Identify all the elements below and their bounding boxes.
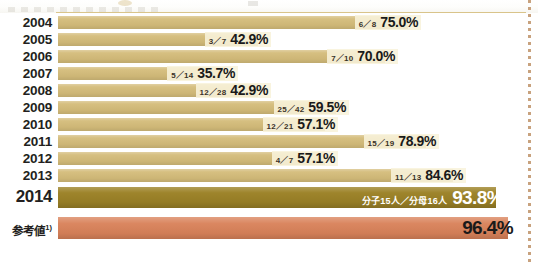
row-fraction-label: 4／7 [276,153,294,168]
row-fraction-label: 11／13 [395,170,421,185]
row-year-label: 2009 [0,99,52,116]
row-value-label-group: 11／13 84.6% [391,168,466,183]
reference-footnote-marker: 1) [45,223,52,232]
row-year-label: 2004 [0,14,52,31]
row-value-label-group: 12／21 57.1% [263,117,339,132]
row-year-label: 2006 [0,48,52,65]
row-percent-label: 57.1% [297,151,335,166]
row-track: 5／14 35.7% [58,67,538,80]
row-fraction-label: 25／42 [278,102,305,117]
row-track: 3／7 42.9% [58,33,538,46]
row-reference-label: 参考値1) [0,213,52,243]
row-track: 12／21 57.1% [58,118,538,131]
chart-row-2009: 2009 25／42 59.5% [0,99,538,116]
row-percent-label: 70.0% [357,49,395,64]
row-fraction-label: 分子15人／分母16人 [362,191,447,212]
row-year-label: 2008 [0,82,52,99]
row-track: 4／7 57.1% [58,152,538,165]
row-percent-label: 35.7% [197,66,235,81]
row-track: 25／42 59.5% [58,101,538,114]
row-track: 15／19 78.9% [58,135,538,148]
chart-row-2005: 2005 3／7 42.9% [0,31,538,48]
chart-row-2007: 2007 5／14 35.7% [0,65,538,82]
row-fraction-label: 15／19 [368,136,395,151]
row-year-label: 2013 [0,167,52,184]
chart-row-2013: 2013 11／13 84.6% [0,167,538,184]
row-track: 7／10 70.0% [58,50,538,63]
row-fraction-label: 7／10 [331,51,353,66]
row-percent-label: 42.9% [230,32,268,47]
row-fraction-label: 3／7 [209,34,227,49]
row-year-label: 2007 [0,65,52,82]
row-value-label-group: 分子15人／分母16人 93.8% [358,187,509,208]
row-year-label: 2014 [0,184,52,210]
row-track: 11／13 84.6% [58,169,538,182]
chart-row-2011: 2011 15／19 78.9% [0,133,538,150]
row-value-label-group: 25／42 59.5% [274,100,350,115]
row-value-label-group: 12／28 42.9% [196,83,272,98]
row-year-label: 2011 [0,133,52,150]
row-bar [58,217,508,239]
row-percent-label: 59.5% [308,100,346,115]
row-percent-label: 84.6% [425,168,463,183]
top-ghost-mark-secondary-icon [248,1,258,6]
row-percent-label: 75.0% [380,15,418,30]
row-value-label-group: 96.4% [458,217,521,239]
row-year-label: 2005 [0,31,52,48]
row-fraction-label: 5／14 [171,68,193,83]
chart-row-2004: 2004 6／8 75.0% [0,14,538,31]
row-year-label: 2010 [0,116,52,133]
top-horizontal-rule [56,12,526,13]
row-value-label-group: 6／8 75.0% [355,15,421,30]
row-value-label-group: 3／7 42.9% [205,32,271,47]
top-ghost-mark-icon [118,0,132,6]
row-value-label-group: 5／14 35.7% [167,66,238,81]
row-percent-label: 93.8% [452,187,503,208]
row-fraction-label: 6／8 [359,17,377,32]
row-track: 分子15人／分母16人 93.8% [58,187,538,208]
chart-rows: 2004 6／8 75.0% 2005 3／7 42.9% 2006 [0,14,538,243]
chart-row-2014-highlight: 2014 分子15人／分母16人 93.8% [0,184,538,210]
row-percent-label: 57.1% [297,117,335,132]
row-track: 6／8 75.0% [58,16,538,29]
row-year-label: 2012 [0,150,52,167]
chart-row-2008: 2008 12／28 42.9% [0,82,538,99]
chart-row-2012: 2012 4／7 57.1% [0,150,538,167]
row-percent-label: 42.9% [230,83,268,98]
chart-row-reference: 参考値1) 96.4% [0,213,538,243]
chart-row-2006: 2006 7／10 70.0% [0,48,538,65]
row-value-label-group: 7／10 70.0% [327,49,398,64]
reference-label-text: 参考値 [12,225,45,237]
row-value-label-group: 15／19 78.9% [364,134,440,149]
row-percent-label: 96.4% [462,217,513,239]
row-percent-label: 78.9% [398,134,436,149]
row-fraction-label: 12／21 [267,119,294,134]
chart-row-2010: 2010 12／21 57.1% [0,116,538,133]
row-track: 96.4% [58,217,538,239]
horizontal-bar-chart: 2004 6／8 75.0% 2005 3／7 42.9% 2006 [0,0,538,263]
row-track: 12／28 42.9% [58,84,538,97]
row-fraction-label: 12／28 [200,85,227,100]
row-value-label-group: 4／7 57.1% [272,151,338,166]
